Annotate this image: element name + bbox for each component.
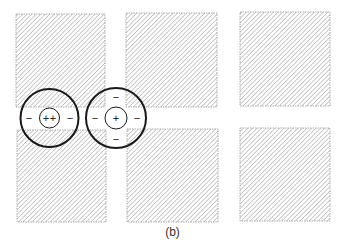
minus-sign: − [134, 112, 140, 124]
minus-sign: − [92, 112, 98, 124]
figure-caption: (b) [0, 225, 345, 239]
minus-sign: − [113, 91, 119, 103]
plus-sign: + [43, 112, 49, 124]
hatched-square [126, 13, 217, 107]
minus-sign: − [67, 112, 73, 124]
hatched-square [240, 12, 330, 106]
street-field: +−−−− [86, 88, 146, 148]
hatched-square [16, 14, 105, 107]
hatched-square [127, 129, 218, 222]
hatched-square [240, 128, 330, 221]
hermann-grid-diagram: ++−−+−−−− [0, 0, 345, 248]
plus-sign: + [113, 112, 119, 124]
minus-sign: − [113, 133, 119, 145]
minus-sign: − [26, 112, 32, 124]
plus-sign: + [50, 112, 56, 124]
grid-squares [16, 12, 330, 222]
